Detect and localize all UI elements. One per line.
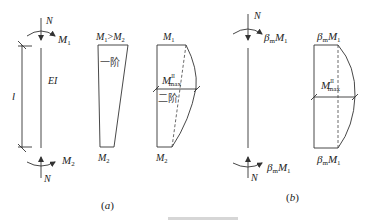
panel-b: N βmM1 βmM1 N βmM1 MIImax βmM1 (b) (233, 10, 358, 204)
second-order-moment-diagram: M1 MIImax 二阶 M2 (153, 31, 200, 164)
diagram-max-label-b: MIImax (320, 78, 340, 93)
diagram-top-label-b: βmM1 (316, 30, 341, 44)
bottom-moment-label-b: βmM1 (266, 161, 291, 175)
top-force-label: N (45, 15, 54, 26)
first-order-bottom-label: M2 (97, 152, 110, 164)
first-order-label: 一阶 (100, 56, 120, 68)
panel-a: l N M1 EI M2 N M1>M2 一阶 M2 M1 MIImax (12, 15, 200, 212)
top-moment-label-b: βmM1 (263, 31, 288, 45)
length-label: l (12, 90, 15, 102)
second-order-max-label: MIImax (161, 73, 181, 88)
caption-b: (b) (286, 191, 299, 204)
second-order-top-label: M1 (162, 31, 175, 43)
amplified-moment-diagram: βmM1 MIImax βmM1 (311, 30, 358, 167)
length-dimension: l (12, 41, 32, 152)
moment-diagram-figure: l N M1 EI M2 N M1>M2 一阶 M2 M1 MIImax (0, 0, 370, 220)
bottom-force-label: N (43, 173, 52, 184)
first-order-top-label: M1>M2 (95, 31, 125, 43)
second-order-bottom-label: M2 (155, 152, 168, 164)
second-order-label: 二阶 (158, 92, 178, 104)
top-moment-arrow-b (233, 29, 262, 34)
diagram-bottom-label-b: βmM1 (316, 153, 341, 167)
caption-a: (a) (101, 199, 114, 212)
bottom-force-label-b: N (250, 172, 259, 183)
bottom-moment-label: M2 (61, 154, 75, 168)
figure-caption-cropped (168, 217, 238, 220)
stiffness-label: EI (47, 75, 58, 86)
top-moment-label: M1 (57, 33, 71, 47)
top-force-label-b: N (253, 10, 262, 21)
bottom-moment-arrow-b (233, 163, 262, 167)
first-order-moment-diagram: M1>M2 一阶 M2 (95, 31, 128, 164)
